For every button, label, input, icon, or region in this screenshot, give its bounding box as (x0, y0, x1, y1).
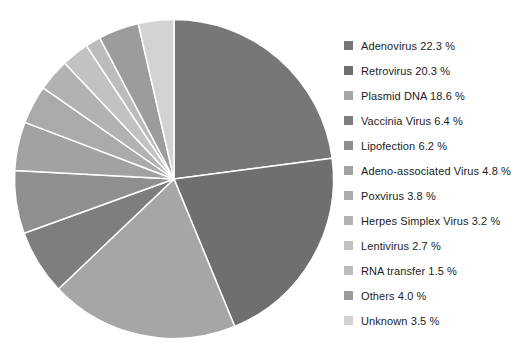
legend-swatch (344, 166, 353, 175)
legend-item: RNA transfer 1.5 % (344, 258, 511, 283)
legend-label: Herpes Simplex Virus 3.2 % (361, 215, 500, 227)
legend-item: Lentivirus 2.7 % (344, 233, 511, 258)
legend-swatch (344, 66, 353, 75)
legend-swatch (344, 116, 353, 125)
legend-item: Lipofection 6.2 % (344, 133, 511, 158)
legend-swatch (344, 291, 353, 300)
legend-item: Vaccinia Virus 6.4 % (344, 108, 511, 133)
legend-item: Poxvirus 3.8 % (344, 183, 511, 208)
legend: Adenovirus 22.3 %Retrovirus 20.3 %Plasmi… (344, 33, 511, 333)
legend-item: Adenovirus 22.3 % (344, 33, 511, 58)
legend-label: Others 4.0 % (361, 290, 426, 302)
legend-swatch (344, 316, 353, 325)
legend-item: Retrovirus 20.3 % (344, 58, 511, 83)
legend-label: Lentivirus 2.7 % (361, 240, 441, 252)
legend-label: Vaccinia Virus 6.4 % (361, 115, 463, 127)
legend-item: Others 4.0 % (344, 283, 511, 308)
legend-swatch (344, 191, 353, 200)
legend-swatch (344, 266, 353, 275)
legend-label: Retrovirus 20.3 % (361, 65, 450, 77)
legend-item: Adeno-associated Virus 4.8 % (344, 158, 511, 183)
legend-item: Plasmid DNA 18.6 % (344, 83, 511, 108)
legend-label: Poxvirus 3.8 % (361, 190, 436, 202)
legend-label: RNA transfer 1.5 % (361, 265, 457, 277)
legend-label: Unknown 3.5 % (361, 315, 439, 327)
legend-swatch (344, 41, 353, 50)
legend-swatch (344, 141, 353, 150)
legend-label: Lipofection 6.2 % (361, 140, 447, 152)
legend-label: Plasmid DNA 18.6 % (361, 90, 465, 102)
legend-label: Adenovirus 22.3 % (361, 40, 455, 52)
legend-swatch (344, 216, 353, 225)
legend-label: Adeno-associated Virus 4.8 % (361, 165, 511, 177)
legend-swatch (344, 241, 353, 250)
legend-item: Unknown 3.5 % (344, 308, 511, 333)
pie-chart (0, 0, 346, 346)
legend-swatch (344, 91, 353, 100)
legend-item: Herpes Simplex Virus 3.2 % (344, 208, 511, 233)
pie-slice-adenovirus (174, 20, 332, 180)
